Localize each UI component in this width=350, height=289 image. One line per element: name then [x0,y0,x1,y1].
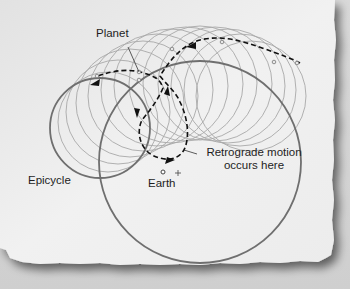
retrograde-label-line2: occurs here [198,159,310,172]
diagram-canvas [0,0,350,289]
epicycle-label: Epicycle [28,174,71,187]
earth-marker [161,170,165,174]
earth-label: Earth [148,177,176,190]
planet-label: Planet [96,27,129,40]
retrograde-label: Retrograde motion occurs here [198,146,310,172]
retrograde-label-line1: Retrograde motion [198,146,310,159]
diagram-root: Planet Epicycle Earth Retrograde motion … [0,0,350,289]
